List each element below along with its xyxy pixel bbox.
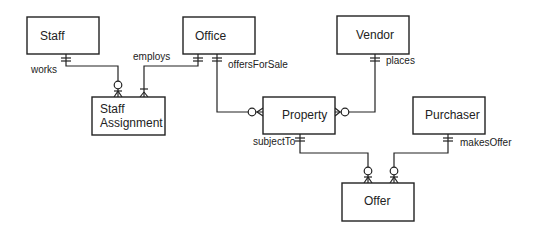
relationship-label-subjectTo: subjectTo xyxy=(253,136,296,147)
entity-label-line-2: Assignment xyxy=(100,116,163,130)
entity-staff[interactable]: Staff xyxy=(27,17,99,54)
relationship-places xyxy=(335,54,380,116)
er-diagram: works employs offersForSale places xyxy=(0,0,535,235)
entity-purchaser[interactable]: Purchaser xyxy=(413,97,485,134)
entity-staff-assignment[interactable]: Staff Assignment xyxy=(92,97,165,135)
relationship-label-works: works xyxy=(30,64,57,75)
entity-office[interactable]: Office xyxy=(183,17,255,54)
entity-label: Vendor xyxy=(356,28,394,42)
relationship-label-employs: employs xyxy=(133,51,170,62)
relationship-works xyxy=(61,54,122,97)
entity-property[interactable]: Property xyxy=(263,97,335,134)
relationship-subjectTo xyxy=(295,134,372,183)
relationship-label-offersForSale: offersForSale xyxy=(228,59,288,70)
entity-label: Staff xyxy=(40,29,65,43)
entity-vendor[interactable]: Vendor xyxy=(337,16,409,54)
entity-offer[interactable]: Offer xyxy=(342,183,414,221)
entity-label: Offer xyxy=(364,194,390,208)
entity-label: Purchaser xyxy=(425,108,480,122)
entity-label-line-1: Staff xyxy=(100,102,125,116)
entity-label: Office xyxy=(195,29,226,43)
relationship-label-makesOffer: makesOffer xyxy=(460,137,512,148)
relationship-label-places: places xyxy=(386,55,415,66)
entity-label: Property xyxy=(282,108,327,122)
relationship-makesOffer xyxy=(390,134,453,183)
